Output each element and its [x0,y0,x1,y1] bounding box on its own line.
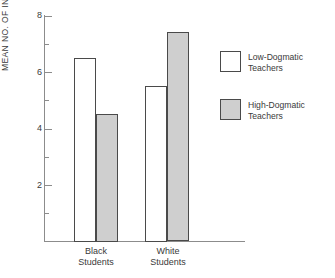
legend-swatch-white-square [220,51,241,72]
chart-figure: MEAN NO. OF INTERACTIONS 8642 Black Stud… [0,0,335,278]
category-label-white-students: White Students [128,246,208,268]
legend-label: Low-Dogmatic Teachers [248,51,303,73]
legend-item-low-dogmatic: Low-Dogmatic Teachers [220,51,303,73]
category-label-line2: Students [128,257,208,268]
y-axis-tick-minor [45,100,49,101]
y-axis-tick-labels: 8642 [14,0,42,278]
y-axis-tick-major [45,72,52,73]
bar [145,86,167,241]
category-label-line1: White [128,246,208,257]
y-axis-tick-label: 2 [28,181,42,190]
y-axis-tick-major [45,129,52,130]
bar [96,114,118,241]
y-axis-tick-minor [45,44,49,45]
category-label-line1: Black [56,246,136,257]
y-axis-tick-minor [45,157,49,158]
category-label-black-students: Black Students [56,246,136,268]
legend-item-high-dogmatic: High-Dogmatic Teachers [220,99,305,121]
category-label-line2: Students [56,257,136,268]
y-axis-tick-major [45,185,52,186]
y-axis-tick-label: 4 [28,124,42,133]
bar [74,58,96,242]
y-axis-tick-major [45,16,52,17]
legend-swatch-gray-square [220,99,241,120]
bar [167,32,189,241]
y-axis-tick-minor [45,213,49,214]
y-axis-tick-label: 8 [28,11,42,20]
legend-label: High-Dogmatic Teachers [248,99,305,121]
y-axis-tick-label: 6 [28,68,42,77]
